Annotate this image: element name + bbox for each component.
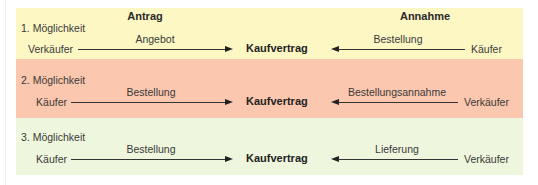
option-2-right-message: Bestellungsannahme bbox=[348, 86, 446, 98]
option-1-left-party: Verkäufer bbox=[20, 43, 73, 55]
option-2-section: 2. Möglichkeit Käufer Bestellung Kaufver… bbox=[16, 59, 523, 118]
option-2-contract-label: Kaufvertrag bbox=[246, 95, 308, 107]
column-header-antrag: Antrag bbox=[127, 10, 162, 22]
contract-formation-diagram: Antrag Annahme 1. Möglichkeit Verkäufer … bbox=[16, 8, 523, 175]
option-1-left-arrow-line bbox=[338, 49, 465, 50]
option-1-left-message: Angebot bbox=[135, 33, 174, 45]
option-1-right-message: Bestellung bbox=[373, 33, 422, 45]
option-1-right-arrow-line bbox=[78, 49, 226, 50]
option-2-left-message: Bestellung bbox=[126, 86, 175, 98]
left-frame-line bbox=[5, 0, 6, 185]
option-2-right-party: Verkäufer bbox=[464, 96, 509, 108]
arrow-right-icon bbox=[225, 46, 233, 52]
option-3-contract-label: Kaufvertrag bbox=[246, 152, 308, 164]
option-1-label: 1. Möglichkeit bbox=[21, 22, 85, 34]
option-2-left-party: Käufer bbox=[20, 96, 67, 108]
option-3-left-message: Bestellung bbox=[126, 143, 175, 155]
option-2-right-arrow-line bbox=[71, 102, 226, 103]
option-3-right-message: Lieferung bbox=[375, 143, 419, 155]
option-3-left-arrow-line bbox=[338, 159, 458, 160]
option-3-label: 3. Möglichkeit bbox=[21, 131, 85, 143]
option-1-section: Antrag Annahme 1. Möglichkeit Verkäufer … bbox=[16, 8, 523, 59]
option-1-contract-label: Kaufvertrag bbox=[246, 42, 308, 54]
column-header-annahme: Annahme bbox=[400, 10, 450, 22]
arrow-right-icon bbox=[225, 156, 233, 162]
option-1-right-party: Käufer bbox=[471, 43, 502, 55]
option-3-left-party: Käufer bbox=[20, 153, 67, 165]
option-2-left-arrow-line bbox=[338, 102, 458, 103]
arrow-right-icon bbox=[225, 99, 233, 105]
option-3-right-party: Verkäufer bbox=[464, 153, 509, 165]
option-2-label: 2. Möglichkeit bbox=[21, 74, 85, 86]
option-3-section: 3. Möglichkeit Käufer Bestellung Kaufver… bbox=[16, 118, 523, 175]
option-3-right-arrow-line bbox=[71, 159, 226, 160]
